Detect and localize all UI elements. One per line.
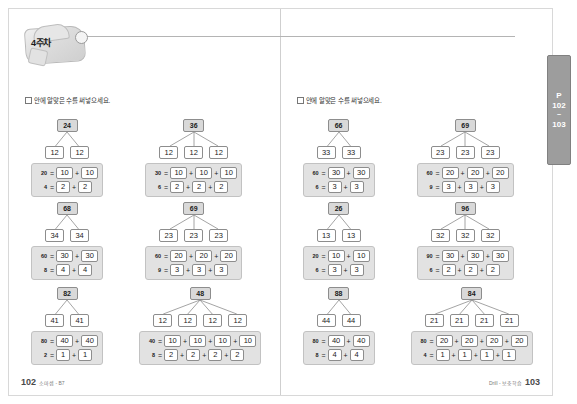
equation-answer-box[interactable]: 3: [214, 264, 228, 276]
equation-answer-box[interactable]: 3: [464, 181, 478, 193]
tree-connector-lines: [44, 300, 90, 314]
equation-answer-box[interactable]: 3: [486, 181, 500, 193]
equation-answer-box[interactable]: 10: [195, 167, 212, 179]
equation-answer-box[interactable]: 2: [230, 349, 244, 361]
tree-child-node: 12: [153, 314, 172, 327]
equation-answer-box[interactable]: 40: [353, 335, 370, 347]
equation-answer-box[interactable]: 30: [467, 250, 484, 262]
equation-answer-box[interactable]: 2: [56, 181, 70, 193]
tree-root-node: 88: [328, 287, 349, 300]
equation-answer-box[interactable]: 2: [486, 264, 500, 276]
plus-sign: +: [185, 267, 191, 274]
plus-sign: +: [479, 184, 485, 191]
equation-answer-box[interactable]: 2: [170, 181, 184, 193]
equation-row: 60=30+30: [36, 250, 98, 262]
tree-root-node: 26: [328, 202, 349, 215]
equation-answer-box[interactable]: 20: [170, 250, 187, 262]
equation-row: 6=2+2+2: [422, 264, 509, 276]
tree-child-node: 33: [342, 146, 361, 159]
side-tab-page-range[interactable]: P 102 ~ 103: [547, 55, 571, 165]
equation-left-value: 4: [36, 184, 47, 190]
equals-sign: =: [49, 253, 55, 260]
equation-panel: 90=30+30+306=2+2+2: [417, 246, 514, 280]
equation-answer-box[interactable]: 10: [164, 335, 181, 347]
left-page: 4주차 안에 알맞은 수를 써넣으세요. 24121220=10+104=2+2…: [9, 9, 281, 395]
equation-answer-box[interactable]: 10: [189, 335, 206, 347]
equation-answer-box[interactable]: 1: [56, 349, 70, 361]
equation-panel: 30=10+10+106=2+2+2: [145, 163, 242, 197]
equation-answer-box[interactable]: 1: [458, 349, 472, 361]
tree-child-node: 21: [500, 314, 519, 327]
equation-left-value: 80: [416, 338, 427, 344]
equation-left-value: 6: [422, 267, 433, 273]
equation-left-value: 80: [36, 338, 47, 344]
equation-answer-box[interactable]: 1: [480, 349, 494, 361]
equation-answer-box[interactable]: 10: [220, 167, 237, 179]
equation-answer-box[interactable]: 2: [192, 181, 206, 193]
tree-root-node: 82: [57, 287, 78, 300]
equation-answer-box[interactable]: 10: [214, 335, 231, 347]
equation-answer-box[interactable]: 2: [186, 349, 200, 361]
equation-answer-box[interactable]: 3: [170, 264, 184, 276]
equation-answer-box[interactable]: 1: [502, 349, 516, 361]
equation-answer-box[interactable]: 40: [81, 335, 98, 347]
number-tree-problem: 6923232360=20+20+209=3+3+3: [417, 119, 514, 197]
equation-answer-box[interactable]: 10: [56, 167, 73, 179]
week-endpoint-circle-icon: [75, 31, 88, 44]
tree-connector-lines: [423, 300, 521, 314]
equation-answer-box[interactable]: 1: [436, 349, 450, 361]
equation-answer-box[interactable]: 2: [78, 181, 92, 193]
equation-row: 60=20+20+20: [422, 167, 509, 179]
equation-answer-box[interactable]: 4: [350, 349, 364, 361]
equation-answer-box[interactable]: 20: [511, 335, 528, 347]
equation-answer-box[interactable]: 40: [56, 335, 73, 347]
equation-answer-box[interactable]: 3: [350, 264, 364, 276]
equation-answer-box[interactable]: 10: [328, 250, 345, 262]
equation-answer-box[interactable]: 3: [350, 181, 364, 193]
plus-sign: +: [460, 170, 466, 177]
equation-answer-box[interactable]: 3: [192, 264, 206, 276]
equation-answer-box[interactable]: 30: [492, 250, 509, 262]
equation-answer-box[interactable]: 20: [467, 167, 484, 179]
equation-answer-box[interactable]: 4: [56, 264, 70, 276]
equation-answer-box[interactable]: 40: [328, 335, 345, 347]
equation-answer-box[interactable]: 4: [78, 264, 92, 276]
equation-answer-box[interactable]: 30: [81, 250, 98, 262]
equation-answer-box[interactable]: 30: [353, 167, 370, 179]
equation-answer-box[interactable]: 10: [81, 167, 98, 179]
equation-answer-box[interactable]: 20: [220, 250, 237, 262]
plus-sign: +: [495, 352, 501, 359]
equation-answer-box[interactable]: 20: [195, 250, 212, 262]
equation-answer-box[interactable]: 30: [56, 250, 73, 262]
equation-answer-box[interactable]: 3: [328, 181, 342, 193]
plus-sign: +: [74, 170, 80, 177]
number-tree: 3612121230=10+10+106=2+2+2: [145, 119, 242, 197]
equation-answer-box[interactable]: 2: [214, 181, 228, 193]
equation-answer-box[interactable]: 2: [442, 264, 456, 276]
equation-answer-box[interactable]: 10: [239, 335, 256, 347]
number-tree: 842121212180=20+20+20+204=1+1+1+1: [411, 287, 533, 365]
equation-answer-box[interactable]: 20: [442, 167, 459, 179]
tree-root-node: 69: [455, 119, 476, 132]
number-tree: 481212121240=10+10+10+108=2+2+2+2: [139, 287, 261, 365]
equation-answer-box[interactable]: 20: [486, 335, 503, 347]
tree-root-node: 36: [183, 119, 204, 132]
equation-answer-box[interactable]: 20: [492, 167, 509, 179]
equation-answer-box[interactable]: 10: [353, 250, 370, 262]
equation-answer-box[interactable]: 2: [464, 264, 478, 276]
equation-answer-box[interactable]: 30: [442, 250, 459, 262]
equation-answer-box[interactable]: 1: [78, 349, 92, 361]
equals-sign: =: [321, 338, 327, 345]
tree-child-node: 23: [431, 146, 450, 159]
equation-left-value: 8: [144, 352, 155, 358]
equation-answer-box[interactable]: 3: [328, 264, 342, 276]
equation-answer-box[interactable]: 10: [170, 167, 187, 179]
equation-answer-box[interactable]: 30: [328, 167, 345, 179]
equation-row: 2=1+1: [36, 349, 98, 361]
equation-answer-box[interactable]: 20: [436, 335, 453, 347]
equation-answer-box[interactable]: 20: [461, 335, 478, 347]
equation-answer-box[interactable]: 4: [328, 349, 342, 361]
equation-answer-box[interactable]: 2: [164, 349, 178, 361]
equation-answer-box[interactable]: 2: [208, 349, 222, 361]
equation-answer-box[interactable]: 3: [442, 181, 456, 193]
